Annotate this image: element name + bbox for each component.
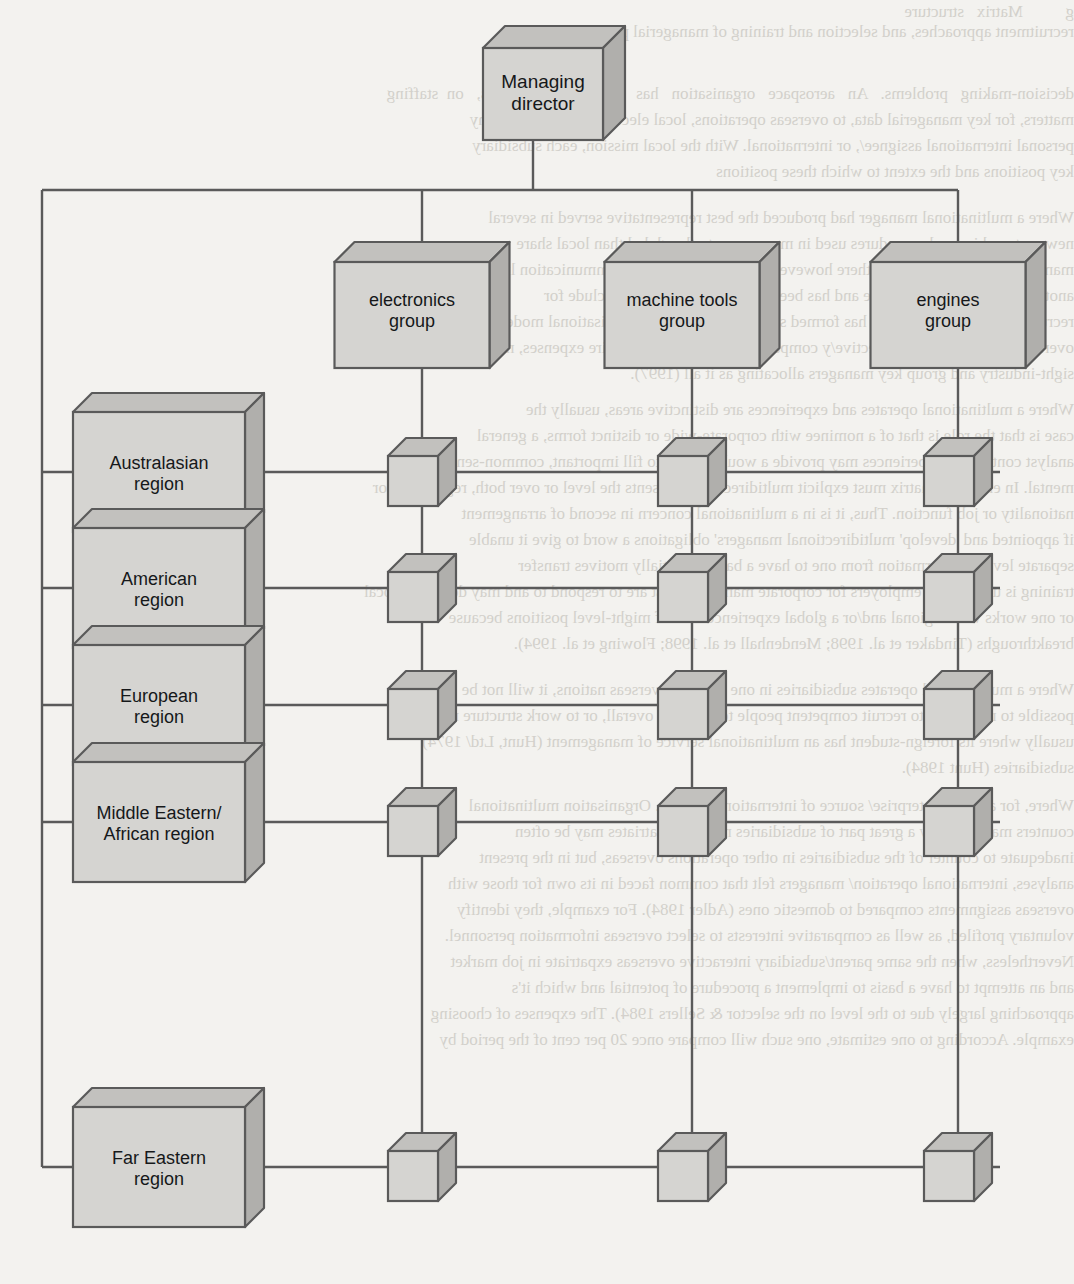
- diagram-canvas: g Matrix structurerecruitment approaches…: [0, 0, 1074, 1284]
- region-box-middle-eastern-top-face: [73, 743, 264, 762]
- matrix-node-r5-c3-front-face: [924, 1151, 974, 1201]
- managing-director-box-top-face: [483, 26, 625, 48]
- matrix-node-r4-c3[interactable]: [924, 788, 992, 856]
- group-box-electronics-top-face: [335, 242, 510, 262]
- matrix-node-r5-c1[interactable]: [388, 1133, 456, 1201]
- matrix-node-r2-c1-front-face: [388, 572, 438, 622]
- group-box-engines-top-face: [871, 242, 1046, 262]
- matrix-node-r3-c1-front-face: [388, 689, 438, 739]
- region-box-australasian-top-face: [73, 393, 264, 412]
- matrix-node-r5-c2-front-face: [658, 1151, 708, 1201]
- matrix-node-r5-c3[interactable]: [924, 1133, 992, 1201]
- matrix-node-r4-c3-front-face: [924, 806, 974, 856]
- managing-director-label: Managingdirector: [501, 71, 584, 114]
- matrix-node-r1-c1-front-face: [388, 456, 438, 506]
- matrix-node-r1-c1[interactable]: [388, 438, 456, 506]
- matrix-node-r2-c2-front-face: [658, 572, 708, 622]
- matrix-node-r2-c1[interactable]: [388, 554, 456, 622]
- matrix-node-r1-c3[interactable]: [924, 438, 992, 506]
- group-box-electronics-side-face: [490, 242, 510, 368]
- matrix-node-r5-c1-front-face: [388, 1151, 438, 1201]
- matrix-node-r5-c2[interactable]: [658, 1133, 726, 1201]
- matrix-node-r3-c3[interactable]: [924, 671, 992, 739]
- matrix-node-r4-c2[interactable]: [658, 788, 726, 856]
- matrix-node-r4-c2-front-face: [658, 806, 708, 856]
- matrix-node-r3-c2-front-face: [658, 689, 708, 739]
- group-label-engines: enginesgroup: [916, 290, 979, 331]
- matrix-node-r1-c2[interactable]: [658, 438, 726, 506]
- matrix-node-r1-c3-front-face: [924, 456, 974, 506]
- region-box-far-eastern-side-face: [245, 1088, 264, 1227]
- matrix-node-r2-c3[interactable]: [924, 554, 992, 622]
- region-box-american-top-face: [73, 509, 264, 528]
- matrix-node-r3-c3-front-face: [924, 689, 974, 739]
- matrix-node-r4-c1-front-face: [388, 806, 438, 856]
- matrix-node-r2-c3-front-face: [924, 572, 974, 622]
- region-box-middle-eastern-side-face: [245, 743, 264, 882]
- group-box-machine-tools-top-face: [605, 242, 780, 262]
- group-box-machine-tools-side-face: [760, 242, 780, 368]
- matrix-organisation-diagram: Managingdirectorelectronicsgroupmachine …: [0, 0, 1074, 1284]
- matrix-node-r4-c1[interactable]: [388, 788, 456, 856]
- matrix-node-r2-c2[interactable]: [658, 554, 726, 622]
- group-box-engines-side-face: [1026, 242, 1046, 368]
- region-box-far-eastern-top-face: [73, 1088, 264, 1107]
- region-label-middle-eastern: Middle Eastern/African region: [96, 803, 221, 844]
- matrix-node-r3-c2[interactable]: [658, 671, 726, 739]
- box-layer: [73, 26, 1046, 1227]
- matrix-node-r1-c2-front-face: [658, 456, 708, 506]
- matrix-node-r3-c1[interactable]: [388, 671, 456, 739]
- region-box-european-top-face: [73, 626, 264, 645]
